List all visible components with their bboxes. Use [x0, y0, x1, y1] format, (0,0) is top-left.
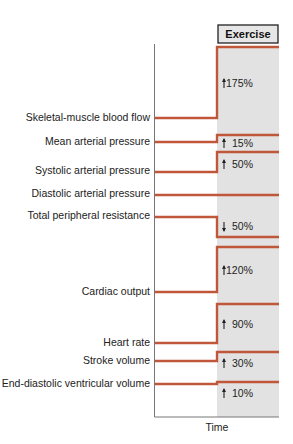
percent-change: 50%	[232, 158, 253, 170]
variable-label: Stroke volume	[83, 354, 150, 366]
exercise-cardiovascular-diagram: Exercise Time Skeletal-muscle blood flow…	[0, 0, 293, 444]
percent-change: 15%	[232, 137, 253, 149]
variable-label: End-diastolic ventricular volume	[2, 377, 150, 389]
variable-label: Total peripheral resistance	[27, 209, 150, 221]
exercise-header-box: Exercise	[218, 25, 278, 43]
percent-change: 10%	[232, 387, 253, 399]
percent-change: 90%	[232, 318, 253, 330]
variable-label: Systolic arterial pressure	[35, 164, 150, 176]
variable-label: Skeletal-muscle blood flow	[26, 111, 151, 123]
percent-change: 30%	[232, 357, 253, 369]
x-axis-label: Time	[206, 421, 229, 433]
variable-label: Heart rate	[103, 336, 150, 348]
variable-labels: Skeletal-muscle blood flowMean arterial …	[2, 111, 151, 389]
annotation-up-175pct: 175%	[222, 77, 253, 89]
percent-change: 50%	[232, 220, 253, 232]
variable-label: Diastolic arterial pressure	[32, 187, 151, 199]
variable-label: Cardiac output	[82, 285, 150, 297]
variable-label: Mean arterial pressure	[45, 135, 150, 147]
annotation-up-120pct: 120%	[222, 264, 253, 276]
exercise-label: Exercise	[225, 28, 270, 40]
percent-change: 120%	[226, 264, 253, 276]
percent-change: 175%	[226, 77, 253, 89]
